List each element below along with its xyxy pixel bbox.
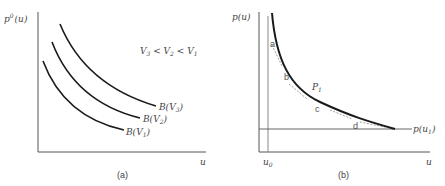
figure: p0(u) u (a) V3 < V2 < V1 B(V3) B(V2) B(V… — [0, 0, 445, 186]
curve-label-v1: B(V1) — [125, 127, 150, 138]
curve-label-v3: B(V3) — [158, 102, 183, 113]
relation-label: V3 < V2 < V1 — [140, 46, 198, 57]
u0-label: u0 — [263, 157, 273, 168]
caption-a: (a) — [117, 170, 128, 180]
p-u1-label: p(u1) — [413, 124, 436, 135]
curve-label-v2: B(V2) — [142, 114, 167, 125]
x-axis-label-a: u — [200, 157, 206, 167]
segment-label-b: b — [284, 72, 289, 82]
panel-a: p0(u) u (a) V3 < V2 < V1 B(V3) B(V2) B(V… — [4, 12, 206, 180]
curve-b-v1 — [43, 61, 124, 130]
segment-label-d: d — [353, 121, 358, 131]
panel-b: p(u) u u0 p(u1) (b) a b c d P1 — [232, 12, 436, 180]
point-p1-label: P1 — [311, 82, 322, 93]
segment-label-a: a — [270, 39, 275, 49]
curve-b-v2 — [52, 42, 140, 118]
y-axis-label-b: p(u) — [232, 12, 251, 22]
x-axis-label-b: u — [426, 157, 432, 167]
caption-b: (b) — [338, 170, 349, 180]
curve-b-v3 — [60, 24, 156, 106]
segment-label-c: c — [315, 104, 320, 114]
y-axis-label-a: p0(u) — [4, 12, 28, 24]
